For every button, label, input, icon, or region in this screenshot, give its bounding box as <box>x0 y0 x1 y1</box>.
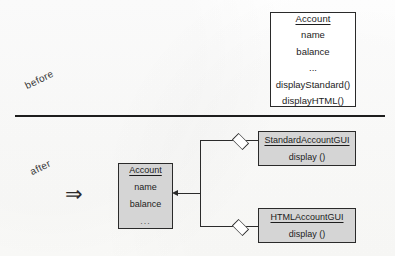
class-name-html-account-gui: HTMLAccountGUI <box>270 213 343 222</box>
class-member-display-standard: displayStandard() <box>276 80 350 90</box>
class-name-standard-account-gui: StandardAccountGUI <box>264 136 349 145</box>
class-box-standard-account-gui: StandardAccountGUI display () <box>258 131 356 166</box>
connector-diamond-to-standard-box <box>246 140 259 141</box>
aggregation-diamond-html-icon <box>232 219 249 236</box>
class-box-account-after: Account name balance ... <box>118 163 173 229</box>
connector-vertical-trunk <box>200 140 201 226</box>
class-name-account-before: Account <box>295 14 330 24</box>
class-member-name-after: name <box>134 183 157 192</box>
class-member-balance: balance <box>296 47 329 57</box>
class-name-account-after: Account <box>129 166 162 175</box>
open-arrow-head-icon <box>172 190 178 196</box>
connector-branch-html <box>200 226 233 227</box>
class-member-ellipsis: ... <box>309 63 317 73</box>
class-member-name: name <box>301 30 325 40</box>
class-member-display-html: displayHTML() <box>282 96 344 106</box>
connector-branch-standard <box>200 140 233 141</box>
class-member-standard-display: display () <box>289 153 326 162</box>
implies-arrow-glyph: ⇒ <box>65 183 83 204</box>
class-box-account-before: Account name balance ... displayStandard… <box>270 12 356 107</box>
class-box-html-account-gui: HTMLAccountGUI display () <box>258 208 356 243</box>
aggregation-diamond-standard-icon <box>232 133 249 150</box>
connector-stem-to-account <box>176 193 201 194</box>
connector-diamond-to-html-box <box>246 226 259 227</box>
section-label-before: before <box>23 68 55 91</box>
diagram-canvas: before Account name balance ... displayS… <box>0 0 395 256</box>
section-divider <box>15 115 385 117</box>
class-member-html-display: display () <box>289 230 326 239</box>
section-label-after: after <box>28 158 52 177</box>
class-member-balance-after: balance <box>130 200 162 209</box>
class-member-ellipsis-after: ... <box>140 217 151 226</box>
